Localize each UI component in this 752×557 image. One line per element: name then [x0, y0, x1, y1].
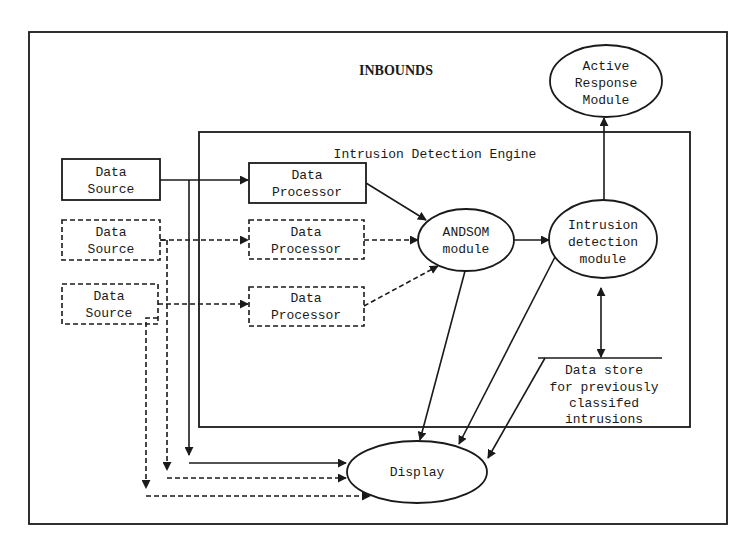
svg-text:module: module — [443, 242, 490, 257]
svg-text:intrusions: intrusions — [565, 412, 643, 427]
svg-text:Data: Data — [93, 289, 124, 304]
svg-text:for previously: for previously — [549, 380, 658, 395]
svg-text:Data store: Data store — [565, 363, 643, 378]
svg-text:Source: Source — [88, 242, 135, 257]
svg-text:classifed: classifed — [569, 396, 639, 411]
svg-text:ANDSOM: ANDSOM — [443, 225, 490, 240]
data-source-2: Data Source — [62, 220, 160, 260]
svg-text:detection: detection — [568, 235, 638, 250]
engine-label: Intrusion Detection Engine — [334, 147, 537, 162]
intrusion-detection-module: Intrusion detection module — [549, 200, 657, 278]
data-source-1: Data Source — [62, 159, 160, 200]
data-processor-1: Data Processor — [249, 163, 366, 203]
svg-text:Response: Response — [575, 76, 637, 91]
data-processor-3: Data Processor — [249, 287, 364, 326]
display-module: Display — [347, 441, 487, 503]
svg-text:Source: Source — [86, 306, 133, 321]
data-processor-2: Data Processor — [249, 220, 364, 259]
svg-text:module: module — [580, 252, 627, 267]
svg-text:Processor: Processor — [271, 242, 341, 257]
svg-text:Data: Data — [290, 291, 321, 306]
svg-text:Source: Source — [88, 182, 135, 197]
andsom-module: ANDSOM module — [418, 209, 514, 271]
svg-text:Active: Active — [583, 59, 630, 74]
inbounds-label: INBOUNDS — [359, 63, 433, 78]
svg-text:Processor: Processor — [272, 185, 342, 200]
svg-text:Data: Data — [95, 165, 126, 180]
svg-text:Module: Module — [583, 93, 630, 108]
active-response-module: Active Response Module — [550, 45, 662, 117]
svg-text:Data: Data — [290, 225, 321, 240]
svg-text:Processor: Processor — [271, 308, 341, 323]
inbounds-architecture-diagram: INBOUNDS Intrusion Detection Engine Data… — [0, 0, 752, 557]
svg-text:Display: Display — [390, 465, 445, 480]
data-source-3: Data Source — [62, 284, 158, 324]
svg-text:Intrusion: Intrusion — [568, 218, 638, 233]
svg-text:Data: Data — [291, 168, 322, 183]
svg-text:Data: Data — [95, 225, 126, 240]
